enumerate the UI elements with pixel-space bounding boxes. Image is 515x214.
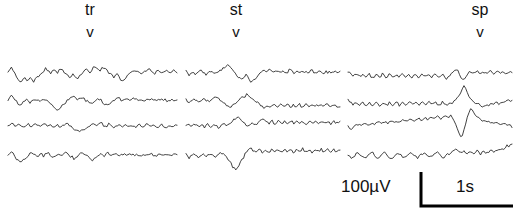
- scale-bar-time-label: 1s: [456, 178, 474, 195]
- eeg-figure: trvstvspv 100µV 1s: [0, 0, 515, 214]
- scale-bar: [0, 0, 515, 214]
- scale-bar-amplitude-label: 100µV: [341, 178, 391, 195]
